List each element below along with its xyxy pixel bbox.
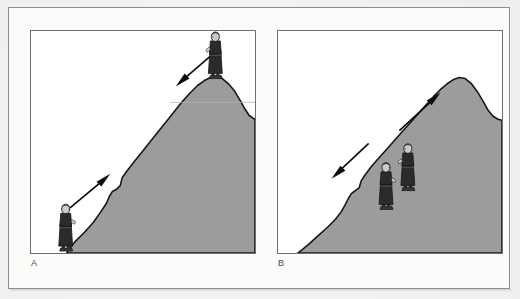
terrain-shape-b: [298, 78, 502, 253]
figure-root: A B: [0, 0, 520, 299]
figure-outer-frame: A B: [8, 7, 510, 289]
panel-b: [277, 30, 503, 254]
panel-label-a: A: [31, 258, 37, 268]
panel-label-b: B: [278, 258, 284, 268]
panel-a: [30, 30, 256, 254]
arrow-ascend-a: [71, 174, 111, 208]
arrow-descend-b: [332, 144, 369, 179]
panel-b-illustration: [278, 31, 502, 253]
climber-at-summit-a: [206, 32, 222, 79]
panel-a-illustration: [31, 31, 255, 253]
terrain-shape-a: [67, 77, 255, 253]
frame-drop-shadow: [10, 289, 512, 292]
